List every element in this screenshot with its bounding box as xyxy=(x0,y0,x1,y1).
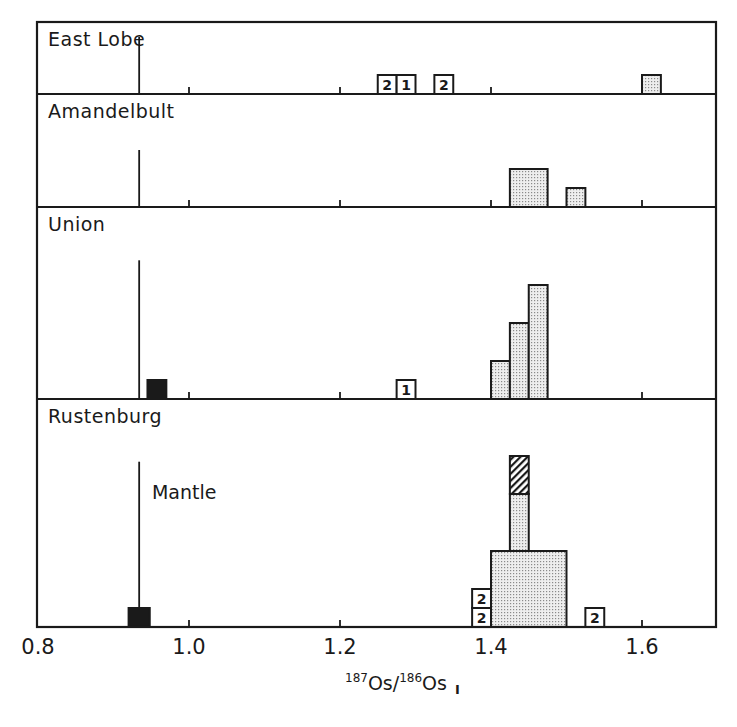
panel-amandelbult: Amandelbult xyxy=(48,100,642,207)
histogram-bar-stippled xyxy=(510,323,529,399)
mantle-annotation: Mantle xyxy=(152,481,217,503)
bars-amandelbult xyxy=(510,169,586,207)
panel-label-amandelbult: Amandelbult xyxy=(48,100,175,122)
histogram-bar-stippled xyxy=(529,285,548,399)
x-tick-label: 1.2 xyxy=(323,635,356,659)
panel-east-lobe: East Lobe xyxy=(48,28,642,94)
bar-count-label: 1 xyxy=(401,77,411,93)
x-tick-label: 1.4 xyxy=(474,635,507,659)
histogram-bar-stippled xyxy=(510,494,529,551)
histogram-bar-black xyxy=(147,380,166,399)
histogram-bar-stippled xyxy=(491,361,510,399)
bar-count-label: 1 xyxy=(401,382,411,398)
x-axis: 187Os/186OsI 0.81.01.21.41.6 xyxy=(21,635,658,697)
bar-count-label: 2 xyxy=(382,77,392,93)
x-tick-label: 1.0 xyxy=(172,635,205,659)
bars-union: 1 xyxy=(147,285,547,399)
panels-layer: East LobeAmandelbultUnionRustenburg xyxy=(48,28,642,627)
bar-count-label: 2 xyxy=(439,77,449,93)
histogram-bar-stippled xyxy=(510,169,548,207)
x-axis-title: 187Os/186OsI xyxy=(345,671,460,697)
x-tick-label: 1.6 xyxy=(625,635,658,659)
panel-label-east-lobe: East Lobe xyxy=(48,28,145,50)
histogram-bar-stippled xyxy=(642,75,661,94)
histogram-chart: East LobeAmandelbultUnionRustenburg 2121… xyxy=(0,0,737,727)
panel-label-rustenburg: Rustenburg xyxy=(48,405,162,427)
histogram-bar-stippled xyxy=(491,551,567,627)
x-tick-label: 0.8 xyxy=(21,635,54,659)
histogram-bar-hatched xyxy=(510,456,529,494)
histogram-bar-stippled xyxy=(567,188,586,207)
panel-union: Union xyxy=(48,213,642,399)
bars-east-lobe: 212 xyxy=(378,75,661,94)
panel-label-union: Union xyxy=(48,213,105,235)
bars-layer: 2121222 xyxy=(129,75,661,627)
bar-count-label: 2 xyxy=(590,610,600,626)
histogram-bar-black xyxy=(129,608,150,627)
bar-count-label: 2 xyxy=(477,591,487,607)
bar-count-label: 2 xyxy=(477,610,487,626)
